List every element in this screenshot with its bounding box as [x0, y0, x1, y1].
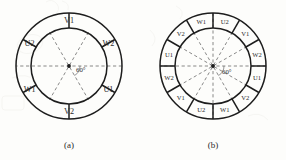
angle-annotation: 60° — [76, 66, 86, 73]
slot-label: U2 — [221, 18, 229, 25]
slot-label: V1 — [241, 30, 249, 37]
winding-diagram-svg: V1W2U1V2W1U260° U2V1W2U1V2W1U2V1W2U1V2W1… — [0, 0, 286, 160]
slot-label: W2 — [164, 74, 174, 81]
slot-label: V1 — [64, 16, 74, 25]
center-point — [211, 64, 215, 68]
slot-label: U1 — [103, 85, 113, 94]
slot-label: V2 — [241, 94, 249, 101]
slot-divider — [232, 99, 240, 112]
slot-label: W1 — [196, 18, 206, 25]
panel-b-diagram: U2V1W2U1V2W1U2V1W2U1V2W160° — [160, 13, 266, 119]
slot-divider — [232, 20, 240, 33]
slot-label: W2 — [252, 51, 262, 58]
slot-label: W1 — [220, 106, 230, 113]
slot-divider — [167, 85, 180, 93]
slot-divider — [246, 85, 259, 93]
slot-divider — [187, 99, 195, 112]
center-point — [67, 64, 71, 68]
slot-label: U2 — [197, 106, 205, 113]
slot-divider — [187, 20, 195, 33]
slot-label: U1 — [253, 74, 261, 81]
slot-label: U1 — [165, 51, 173, 58]
slot-label: V2 — [64, 107, 74, 116]
slot-divider — [167, 40, 180, 48]
slot-label: V1 — [177, 94, 185, 101]
slot-label: V2 — [177, 30, 185, 37]
slot-label: W2 — [102, 39, 114, 48]
slot-divider — [246, 40, 259, 48]
slot-label: W1 — [24, 85, 36, 94]
figure-root: V1W2U1V2W1U260° U2V1W2U1V2W1U2V1W2U1V2W1… — [0, 0, 286, 160]
slot-label: U2 — [25, 39, 35, 48]
panel-a-diagram: V1W2U1V2W1U260° — [16, 13, 122, 119]
